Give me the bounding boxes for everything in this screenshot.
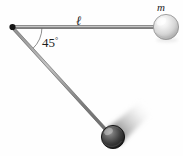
pendulum-figure-svg <box>0 0 183 156</box>
pivot-point <box>9 24 15 30</box>
length-label: ℓ <box>76 14 81 27</box>
degree-symbol: ° <box>55 36 58 45</box>
horizontal-rod <box>12 25 157 28</box>
mass-ball-moving <box>101 125 124 148</box>
diagonal-rod <box>11 26 114 139</box>
mass-label: m <box>157 2 165 13</box>
angle-arc <box>33 27 43 49</box>
pendulum-diagram: 45° ℓ m <box>0 0 183 156</box>
angle-value: 45 <box>42 35 55 50</box>
angle-label: 45° <box>42 36 58 49</box>
mass-ball-rest <box>153 14 178 42</box>
